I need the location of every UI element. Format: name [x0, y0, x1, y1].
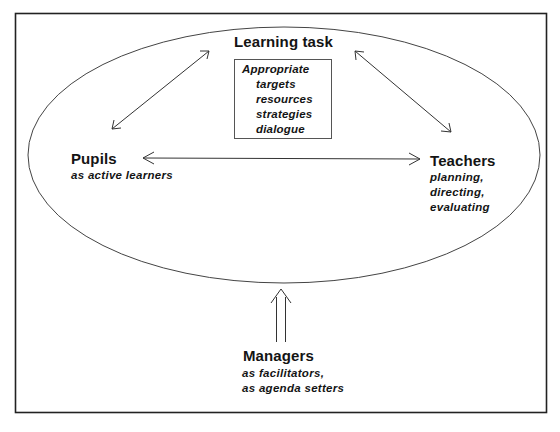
managers-title: Managers [243, 348, 314, 363]
arrow-pupils-teachers [143, 152, 420, 165]
task-item-resources: resources [256, 94, 313, 106]
task-item-targets: targets [256, 79, 296, 91]
managers-subtitle-agenda: as agenda setters [242, 383, 344, 395]
teachers-subtitle-planning: planning, [430, 172, 484, 184]
task-item-dialogue: dialogue [256, 124, 305, 136]
pupils-title: Pupils [71, 151, 117, 166]
arrow-pupils-learning-task [112, 51, 209, 129]
teachers-subtitle-evaluating: evaluating [430, 202, 490, 214]
pupils-subtitle: as active learners [71, 170, 173, 182]
managers-subtitle-facilitators: as facilitators, [242, 368, 324, 380]
diagram-canvas: Learning task Appropriate targets resour… [0, 0, 560, 432]
teachers-title: Teachers [430, 153, 496, 168]
arrow-managers-up [271, 289, 291, 342]
arrow-teachers-learning-task [355, 51, 451, 132]
teachers-subtitle-directing: directing, [430, 187, 485, 199]
task-item-strategies: strategies [256, 109, 312, 121]
learning-task-title: Learning task [234, 34, 333, 49]
task-item-appropriate: Appropriate [242, 64, 309, 76]
